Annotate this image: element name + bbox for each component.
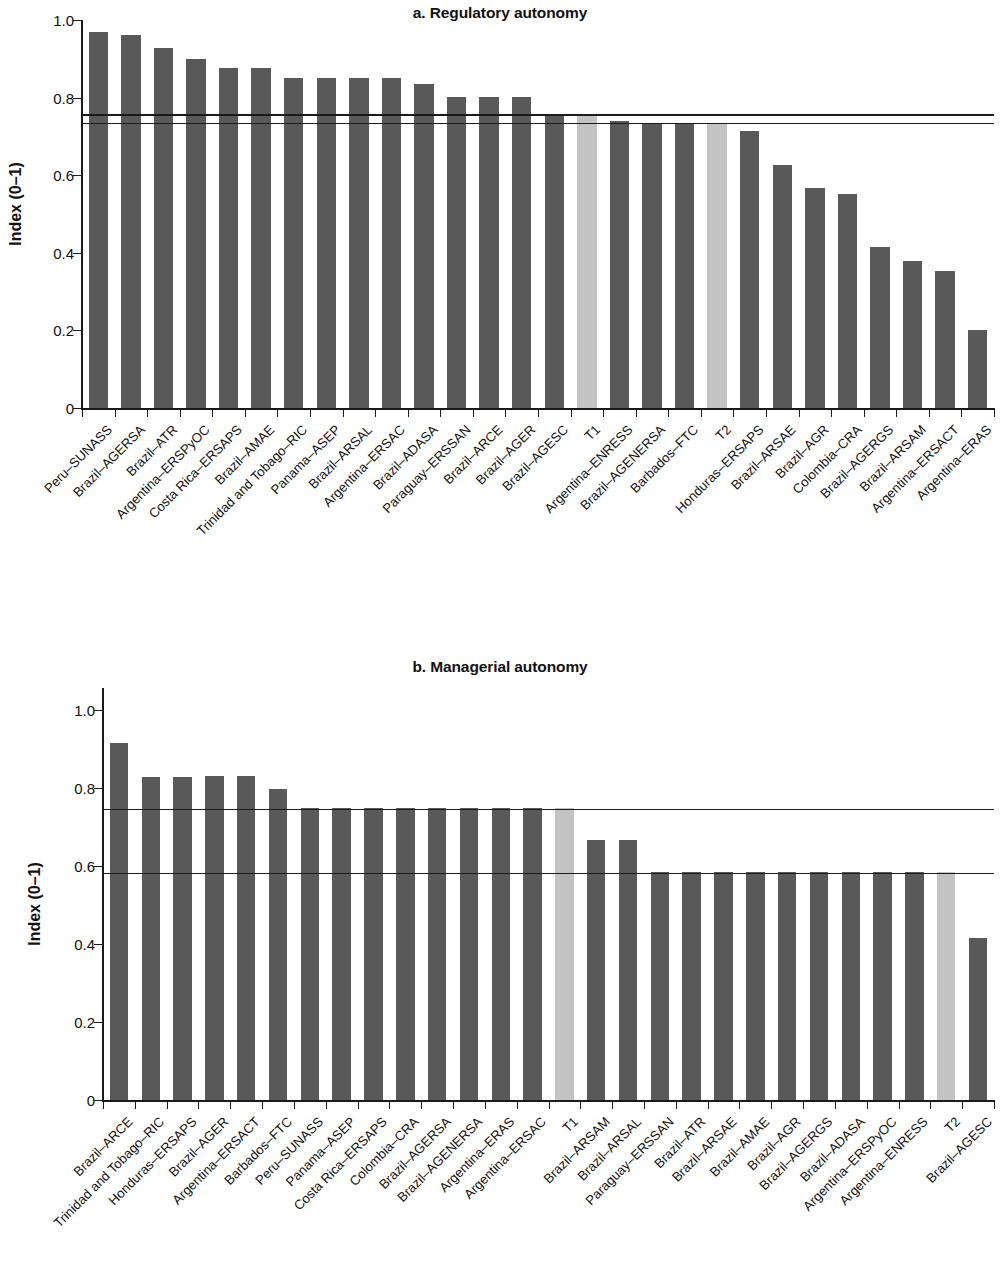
bar [121,35,141,408]
x-tick-label: T2 [712,422,733,443]
chart-a-y-axis [81,20,83,409]
x-tick-mark [180,408,181,417]
y-tick-label: 0.4 [57,936,95,953]
x-tick-mark [571,408,572,417]
bar [968,330,988,408]
x-tick-mark [733,408,734,417]
x-tick-mark [864,408,865,417]
y-tick-mark [73,253,82,254]
y-tick-mark [94,866,103,867]
x-tick-mark [899,1100,900,1109]
bar [935,271,955,408]
x-tick-mark [739,1100,740,1109]
bar [284,78,304,408]
x-tick-mark [421,1100,422,1109]
bar [349,78,369,408]
x-tick-mark [668,408,669,417]
y-tick-label: 0.8 [36,89,74,106]
x-tick-mark [310,408,311,417]
x-tick-mark [147,408,148,417]
x-tick-mark [803,1100,804,1109]
x-tick-mark [375,408,376,417]
x-tick-mark [549,1100,550,1109]
y-tick-label: 0.2 [36,322,74,339]
x-tick-mark [440,408,441,417]
x-tick-mark [135,1100,136,1109]
bar [545,116,565,408]
y-tick-label: 0.8 [57,780,95,797]
bar [269,789,287,1100]
bar [577,116,597,408]
x-tick-mark [930,1100,931,1109]
x-tick-mark [389,1100,390,1109]
x-tick-mark [505,408,506,417]
bar [870,247,890,408]
x-tick-mark [896,408,897,417]
y-tick-mark [94,1100,103,1101]
bar [682,872,700,1100]
bar [740,131,760,408]
bar [479,97,499,408]
x-tick-mark [453,1100,454,1109]
x-tick-label: T1 [560,1114,581,1135]
bar [382,78,402,408]
bar [810,872,828,1100]
x-tick-mark [676,1100,677,1109]
chart-b-y-axis [102,688,104,1100]
x-tick-mark [701,408,702,417]
x-tick-mark [961,408,962,417]
x-tick-mark [167,1100,168,1109]
x-tick-mark [962,1100,963,1109]
x-tick-mark [580,1100,581,1109]
chart-panel-managerial-autonomy: b. Managerial autonomy Index (0–1) 00.20… [0,640,1004,1285]
x-tick-mark [636,408,637,417]
bar [714,872,732,1100]
x-tick-mark [517,1100,518,1109]
y-tick-mark [73,408,82,409]
bar [651,872,669,1100]
bar [805,188,825,408]
bar [903,261,923,408]
y-tick-mark [73,20,82,21]
x-tick-mark [538,408,539,417]
x-tick-mark [867,1100,868,1109]
bar [555,808,573,1101]
reference-line [82,114,994,115]
x-tick-mark [835,1100,836,1109]
x-tick-mark [994,1100,995,1109]
x-tick-mark [262,1100,263,1109]
bar [460,808,478,1101]
x-tick-mark [994,408,995,417]
y-tick-label: 1.0 [36,12,74,29]
bar [842,872,860,1100]
y-tick-mark [94,944,103,945]
bar [110,743,128,1100]
bar [523,808,541,1101]
chart-b-title: b. Managerial autonomy [300,658,700,676]
bar [186,59,206,408]
x-tick-mark [82,408,83,417]
bar [587,840,605,1100]
x-tick-mark [929,408,930,417]
chart-panel-regulatory-autonomy: a. Regulatory autonomy Index (0–1) 00.20… [0,0,1004,640]
bar [89,32,109,408]
bar [838,194,858,408]
bar [154,48,174,408]
bar [317,78,337,408]
y-tick-label: 0.6 [36,167,74,184]
bar [301,808,319,1101]
bar [873,872,891,1100]
reference-line [103,809,994,810]
y-tick-mark [94,1022,103,1023]
x-tick-mark [277,408,278,417]
bar [396,808,414,1101]
bar [251,68,271,408]
bar [778,872,796,1100]
x-tick-mark [644,1100,645,1109]
reference-line [82,123,994,124]
bar [642,124,662,408]
bar [707,124,727,408]
y-tick-label: 0.4 [36,244,74,261]
x-tick-mark [708,1100,709,1109]
bar [142,777,160,1100]
